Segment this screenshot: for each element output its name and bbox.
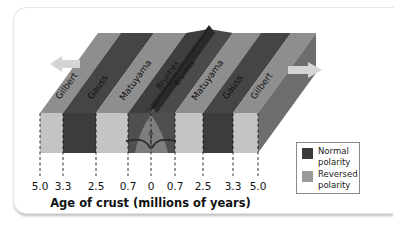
front-stripe-matuyama-left <box>96 113 128 153</box>
legend-label-line1: Reversed <box>318 169 358 180</box>
front-stripe-gauss-right <box>203 113 233 153</box>
front-face <box>40 113 258 153</box>
tick-label: 2.5 <box>88 180 105 192</box>
front-stripe-matuyama-right <box>175 113 203 153</box>
legend-label-line1: Normal <box>318 146 350 157</box>
tick-label: 5.0 <box>32 180 49 192</box>
front-stripe-gauss-left <box>63 113 96 153</box>
reversed-polarity-swatch <box>302 171 313 182</box>
tick-label: 5.0 <box>250 180 267 192</box>
legend-label-line2: polarity <box>318 157 350 168</box>
legend-label-line2: polarity <box>318 180 358 191</box>
tick-label: 0.7 <box>120 180 137 192</box>
front-stripe-gilbert-left <box>40 113 63 153</box>
tick-label: 3.3 <box>55 180 72 192</box>
legend-item-normal: Normal polarity <box>302 146 350 168</box>
tick-label: 3.3 <box>225 180 242 192</box>
legend: Normal polarity Reversed polarity <box>296 142 360 194</box>
tick-label: 0.7 <box>167 180 184 192</box>
tick-label: 0 <box>148 180 155 192</box>
axis-title: Age of crust (millions of years) <box>40 196 261 210</box>
front-stripe-gilbert-right <box>233 113 258 153</box>
tick-label: 2.5 <box>195 180 212 192</box>
legend-item-reversed: Reversed polarity <box>302 169 358 191</box>
normal-polarity-swatch <box>302 148 313 159</box>
